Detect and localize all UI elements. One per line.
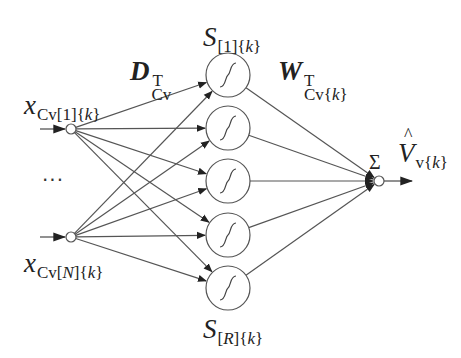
hidden-node <box>206 53 250 97</box>
input-first-label: xCv[1]{k} <box>24 92 101 119</box>
weight-edge <box>76 235 205 237</box>
output-weight-edge <box>249 183 374 228</box>
hat-accent: ^ <box>404 126 412 144</box>
output-weights-label: WTCv{k} <box>278 58 362 85</box>
output-weight-edge <box>249 135 374 179</box>
output-label: V^v{k} <box>398 140 448 167</box>
hidden-to-sum-edges <box>246 88 374 276</box>
hidden-node <box>206 159 250 203</box>
hidden-last-label: S[R]{k} <box>203 316 263 343</box>
hidden-node <box>206 106 250 150</box>
weight-edge <box>75 132 209 222</box>
weight-edge <box>76 128 205 129</box>
input-node <box>66 232 76 242</box>
sum-symbol: Σ <box>369 152 381 172</box>
hidden-node <box>206 213 250 257</box>
sum-node <box>374 176 384 186</box>
hidden-first-label: S[1]{k} <box>203 24 261 51</box>
input-weights-label: DTCv <box>130 58 180 85</box>
input-node <box>66 124 76 134</box>
hidden-node <box>206 266 250 310</box>
weight-edge <box>76 131 206 174</box>
input-last-label: xCv[N]{k} <box>24 250 103 277</box>
ellipsis: ··· <box>42 170 64 190</box>
output-weight-edge <box>246 184 374 275</box>
weight-edge <box>75 141 209 234</box>
neural-network-diagram: xCv[1]{k} ··· xCv[N]{k} DTCv S[1]{k} S[R… <box>0 0 461 358</box>
